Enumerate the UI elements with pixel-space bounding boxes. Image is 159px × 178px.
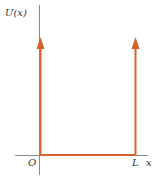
x-axis-label: x (146, 158, 152, 168)
potential-well (37, 37, 140, 155)
left-wall-arrowhead (37, 37, 45, 49)
well-width-label: L (132, 158, 139, 168)
origin-label: O (28, 158, 36, 168)
potential-diagram (0, 0, 159, 178)
y-axis-label: U(x) (5, 8, 27, 18)
right-wall-arrowhead (132, 37, 140, 49)
